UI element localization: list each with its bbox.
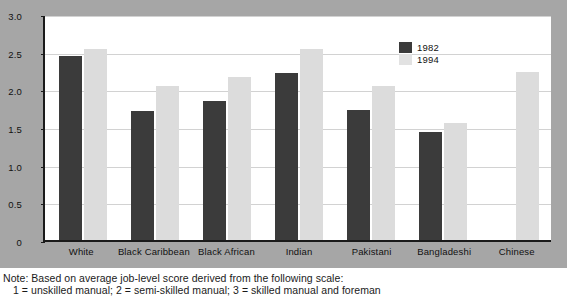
x-axis-label: White — [45, 246, 118, 257]
footnote-line-2: 1 = unskilled manual; 2 = semi-skilled m… — [3, 284, 563, 296]
bar-group — [335, 16, 407, 240]
bar-group-bars — [119, 16, 191, 240]
bar-group — [191, 16, 263, 240]
bar-group-bars — [191, 16, 263, 240]
bar-1994 — [444, 123, 467, 240]
x-axis-label: Bangladeshi — [408, 246, 481, 257]
legend-swatch-1994 — [399, 54, 412, 65]
bar-1994 — [372, 86, 395, 240]
y-axis-tick-label: 3.0 — [0, 11, 22, 22]
chart-footnote: Note: Based on average job-level score d… — [3, 272, 563, 296]
legend-label-1982: 1982 — [417, 42, 439, 53]
bar-group — [479, 16, 551, 240]
x-axis-labels: WhiteBlack CaribbeanBlack AfricanIndianP… — [45, 246, 553, 257]
bar-group — [47, 16, 119, 240]
x-axis-label: Black African — [190, 246, 263, 257]
legend-item-1982: 1982 — [399, 42, 439, 53]
bar-group-bars — [263, 16, 335, 240]
y-axis-tick-mark — [41, 242, 45, 243]
y-axis-tick-label: 0 — [0, 237, 22, 248]
bar-1982 — [347, 110, 370, 240]
bar-1982 — [203, 101, 226, 240]
bar-1994 — [228, 77, 251, 240]
y-axis-tick-label: 1.0 — [0, 161, 22, 172]
bar-1982 — [419, 132, 442, 240]
x-axis-label: Pakistani — [335, 246, 408, 257]
x-axis-label: Indian — [263, 246, 336, 257]
y-axis-tick-label: 1.5 — [0, 124, 22, 135]
legend-label-1994: 1994 — [417, 54, 439, 65]
bar-group-bars — [479, 16, 551, 240]
y-axis-tick-label: 2.0 — [0, 86, 22, 97]
y-axis-tick-label: 2.5 — [0, 48, 22, 59]
x-axis-label: Chinese — [480, 246, 553, 257]
bar-1994 — [84, 49, 107, 240]
bar-1994 — [156, 86, 179, 240]
plot-area — [43, 16, 551, 242]
chart-legend: 1982 1994 — [399, 42, 439, 65]
bar-1994 — [516, 72, 539, 240]
bar-1982 — [275, 73, 298, 240]
bar-group-bars — [335, 16, 407, 240]
bar-groups — [47, 16, 551, 240]
y-axis-tick-label: 0.5 — [0, 199, 22, 210]
bar-group-bars — [47, 16, 119, 240]
bar-1994 — [300, 49, 323, 240]
footnote-line-1: Note: Based on average job-level score d… — [3, 272, 563, 284]
bar-group — [119, 16, 191, 240]
legend-swatch-1982 — [399, 42, 412, 53]
legend-item-1994: 1994 — [399, 54, 439, 65]
bar-group — [263, 16, 335, 240]
chart-panel: 3.02.52.01.51.00.50 WhiteBlack Caribbean… — [0, 0, 567, 268]
x-axis-label: Black Caribbean — [118, 246, 191, 257]
bar-1982 — [131, 111, 154, 240]
bar-1982 — [59, 56, 82, 240]
